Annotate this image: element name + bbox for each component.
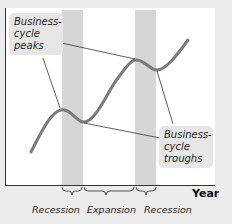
brace-recession-2 (136, 187, 156, 195)
x-axis-label: Year (192, 187, 219, 200)
peaks-text-3: peaks (14, 40, 58, 52)
phase-label-expansion: Expansion (87, 204, 136, 215)
trough-pointer-2 (157, 71, 173, 124)
phase-label-recession-1: Recession (32, 204, 80, 215)
troughs-text-2: cycle (164, 141, 208, 153)
recession-band-1 (62, 10, 83, 185)
brace-expansion (84, 187, 134, 195)
troughs-text-1: Business- (164, 129, 208, 141)
troughs-callout: Business- cycle troughs (159, 126, 213, 168)
brace-recession-1 (62, 187, 82, 195)
peaks-text-1: Business- (14, 16, 58, 28)
peak-pointer-1 (43, 58, 60, 108)
recession-band-2 (135, 10, 156, 185)
troughs-text-3: troughs (164, 153, 208, 165)
phase-label-recession-2: Recession (144, 204, 192, 215)
peaks-callout: Business- cycle peaks (9, 13, 63, 55)
peaks-text-2: cycle (14, 28, 58, 40)
